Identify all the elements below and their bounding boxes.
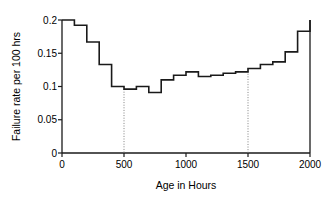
- x-tick-label-500: 500: [116, 159, 133, 170]
- y-tick-label-0.05: 0.05: [38, 114, 58, 125]
- x-tick-label-1500: 1500: [237, 159, 260, 170]
- y-tick-label-0.15: 0.15: [38, 48, 58, 59]
- plot-frame: [62, 20, 310, 153]
- x-tick-label-1000: 1000: [175, 159, 198, 170]
- failure-rate-step-line: [62, 20, 310, 92]
- x-tick-label-2000: 2000: [299, 159, 322, 170]
- failure-rate-chart: 0.2 0.15 0.1 0.05 0 0 500 1000 1500 2000…: [0, 0, 328, 202]
- y-tick-label-0.2: 0.2: [43, 15, 57, 26]
- annotation-lines: [124, 69, 248, 153]
- x-axis-title: Age in Hours: [156, 179, 217, 191]
- x-tick-label-0: 0: [59, 159, 65, 170]
- y-tick-label-0: 0: [51, 148, 57, 159]
- y-axis-title: Failure rate per 100 hrs: [10, 32, 22, 141]
- chart-canvas: 0.2 0.15 0.1 0.05 0 0 500 1000 1500 2000…: [0, 0, 328, 202]
- y-tick-label-0.1: 0.1: [43, 81, 57, 92]
